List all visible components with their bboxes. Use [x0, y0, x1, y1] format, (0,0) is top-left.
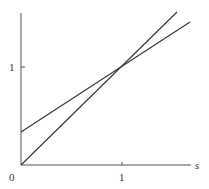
steep-line: [21, 12, 177, 165]
x-axis-label: s: [195, 159, 199, 171]
chart: 0 1 1 s: [0, 0, 209, 189]
x-tick-label-1: 1: [119, 171, 125, 183]
y-tick-label-1: 1: [9, 61, 15, 73]
origin-label: 0: [9, 171, 15, 183]
shallow-line: [21, 22, 190, 132]
